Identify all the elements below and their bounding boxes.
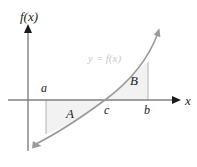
x-axis-arrowhead-icon bbox=[172, 96, 181, 104]
region-label-b: B bbox=[130, 73, 138, 88]
figure-canvas: f(x) x y = f(x) a c b A B bbox=[0, 0, 197, 167]
point-label-b: b bbox=[144, 103, 150, 117]
point-label-a: a bbox=[41, 81, 47, 95]
x-axis-label: x bbox=[184, 93, 191, 108]
point-label-c: c bbox=[104, 103, 110, 117]
y-axis-label: f(x) bbox=[20, 9, 38, 24]
curve-right-arrowhead-icon bbox=[154, 27, 163, 37]
region-a-fill bbox=[46, 100, 105, 134]
y-axis-arrowhead-icon bbox=[24, 24, 32, 33]
curve-label: y = f(x) bbox=[87, 52, 121, 65]
region-label-a: A bbox=[65, 106, 74, 121]
